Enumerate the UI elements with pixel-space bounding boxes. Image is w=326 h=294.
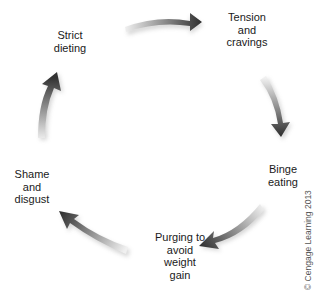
node-tension-cravings: Tension and cravings bbox=[212, 11, 282, 49]
node-shame-disgust: Shame and disgust bbox=[2, 168, 62, 206]
node-text: gain bbox=[142, 269, 218, 282]
node-text: Purging to bbox=[142, 231, 218, 244]
node-text: and bbox=[2, 181, 62, 194]
copyright-notice: © Cengage Learning 2013 bbox=[303, 190, 313, 290]
node-purging: Purging to avoid weight gain bbox=[142, 231, 218, 281]
node-binge-eating: Binge eating bbox=[258, 163, 308, 188]
node-text: Shame bbox=[2, 168, 62, 181]
node-text: Tension bbox=[212, 11, 282, 24]
node-text: cravings bbox=[212, 36, 282, 49]
node-strict-dieting: Strict dieting bbox=[40, 29, 100, 54]
node-text: and bbox=[212, 24, 282, 37]
arrow-purging-to-shame bbox=[59, 211, 128, 254]
node-text: weight bbox=[142, 256, 218, 269]
node-text: dieting bbox=[40, 42, 100, 55]
node-text: Binge bbox=[258, 163, 308, 176]
node-text: avoid bbox=[142, 244, 218, 257]
node-text: eating bbox=[258, 176, 308, 189]
arrow-tension-to-binge bbox=[260, 76, 290, 137]
node-text: Strict bbox=[40, 29, 100, 42]
node-text: disgust bbox=[2, 193, 62, 206]
